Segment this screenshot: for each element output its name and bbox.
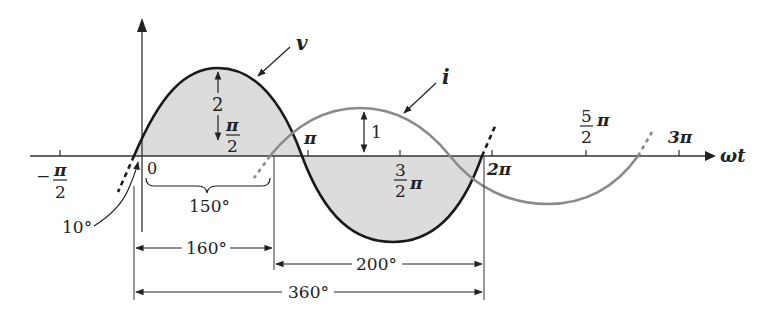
tick-three-half-pi-num: 3 bbox=[395, 160, 406, 180]
v-negative-fill bbox=[302, 156, 482, 242]
tick-three-half-pi-den: 2 bbox=[395, 181, 406, 201]
v-pointer-arrow bbox=[258, 47, 290, 76]
offset-label: 10° bbox=[62, 217, 92, 237]
tick-five-half-pi-num: 5 bbox=[581, 106, 592, 126]
v-peak-pi: π bbox=[225, 115, 239, 135]
tick-zero: 0 bbox=[147, 159, 157, 178]
i-curve-label: i bbox=[442, 65, 450, 89]
i-amplitude-value: 1 bbox=[371, 122, 382, 142]
tick-neg-half-pi-num: π bbox=[53, 160, 67, 180]
v-amplitude-value: 2 bbox=[212, 94, 223, 115]
v-curve-label: v bbox=[296, 31, 308, 55]
tick-three-pi: 3π bbox=[668, 127, 693, 147]
v-peak-two: 2 bbox=[227, 136, 238, 156]
dim-360-label: 360° bbox=[288, 282, 329, 302]
v-curve-dashed-left bbox=[118, 156, 134, 192]
y-axis-arrow-icon bbox=[137, 18, 147, 32]
brace-150 bbox=[146, 178, 270, 193]
brace-150-label: 150° bbox=[189, 196, 230, 216]
phase-diagram: v i 2 π 2 1 − π 2 0 π 3 2 π 2π 5 2 π 3π … bbox=[0, 0, 760, 324]
tick-two-pi: 2π bbox=[486, 159, 512, 179]
tick-pi: π bbox=[303, 128, 317, 148]
x-axis-label: ωt bbox=[720, 145, 746, 166]
tick-five-half-pi-suffix: π bbox=[596, 110, 610, 130]
i-curve-dashed-right bbox=[638, 132, 652, 156]
x-axis-arrow-icon bbox=[705, 151, 716, 161]
tick-neg-half-pi-den: 2 bbox=[55, 182, 66, 202]
dim-200-label: 200° bbox=[356, 254, 397, 274]
tick-neg-half-pi-sign: − bbox=[36, 166, 50, 186]
i-curve-dashed-left bbox=[254, 156, 270, 178]
dim-160-label: 160° bbox=[186, 238, 227, 258]
tick-three-half-pi-suffix: π bbox=[409, 173, 423, 193]
v-curve-dashed-right bbox=[482, 124, 496, 156]
offset-pointer-arrow bbox=[94, 162, 138, 226]
tick-five-half-pi-den: 2 bbox=[581, 127, 592, 147]
i-pointer-arrow bbox=[404, 83, 436, 113]
